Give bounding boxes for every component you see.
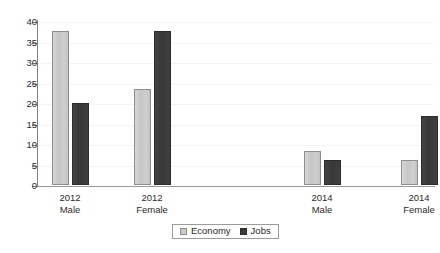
bar-economy-2014-female[interactable]	[401, 160, 418, 185]
y-axis-tick-label: 0	[0, 181, 37, 191]
y-axis-tick-label: 40	[0, 17, 37, 27]
bar-chart: 0510152025303540 2012Male2012Female2014M…	[0, 0, 440, 253]
y-axis-tick-label: 10	[0, 140, 37, 150]
x-axis-label-2014-female: 2014Female	[384, 192, 440, 216]
y-axis-tick-label-text: 15	[9, 120, 37, 130]
x-axis-label-2012-female: 2012Female	[117, 192, 187, 216]
y-axis-tick-label: 5	[0, 161, 37, 171]
legend-swatch-economy-icon	[180, 228, 187, 235]
x-axis-label-gender: Female	[117, 204, 187, 216]
plot-area	[37, 22, 435, 185]
bar-economy-2014-male[interactable]	[304, 151, 321, 185]
x-axis-label-2014-male: 2014Male	[287, 192, 357, 216]
legend-label: Economy	[191, 226, 231, 236]
y-axis-tick-label: 35	[0, 38, 37, 48]
y-axis-tick-label: 15	[0, 120, 37, 130]
legend-item-jobs[interactable]: Jobs	[240, 226, 271, 236]
x-axis-label-gender: Male	[35, 204, 105, 216]
y-axis-tick-label: 20	[0, 99, 37, 109]
y-axis-tick-label: 30	[0, 58, 37, 68]
bar-jobs-2014-female[interactable]	[421, 116, 438, 185]
x-axis-label-gender: Male	[287, 204, 357, 216]
chart-legend: EconomyJobs	[172, 224, 279, 239]
x-axis-label-year: 2014	[384, 192, 440, 204]
y-axis-tick-label-text: 20	[9, 99, 37, 109]
y-axis-tick-label-text: 35	[9, 38, 37, 48]
legend-swatch-jobs-icon	[240, 228, 247, 235]
x-axis-label-year: 2012	[117, 192, 187, 204]
bar-jobs-2012-female[interactable]	[154, 31, 171, 185]
y-axis-tick-label-text: 25	[9, 79, 37, 89]
y-axis-tick-label-text: 30	[9, 58, 37, 68]
x-axis-line	[37, 186, 435, 187]
x-axis-label-year: 2014	[287, 192, 357, 204]
x-axis-label-2012-male: 2012Male	[35, 192, 105, 216]
y-axis-tick-label-text: 0	[9, 181, 37, 191]
y-axis-tick-label: 25	[0, 79, 37, 89]
x-axis-label-gender: Female	[384, 204, 440, 216]
bar-economy-2012-male[interactable]	[52, 31, 69, 185]
bar-jobs-2012-male[interactable]	[72, 103, 89, 185]
bar-jobs-2014-male[interactable]	[324, 160, 341, 185]
y-axis-tick-label-text: 10	[9, 140, 37, 150]
x-axis-label-year: 2012	[35, 192, 105, 204]
y-axis-tick-label-text: 5	[9, 161, 37, 171]
legend-label: Jobs	[251, 226, 271, 236]
legend-item-economy[interactable]: Economy	[180, 226, 231, 236]
bar-economy-2012-female[interactable]	[134, 89, 151, 185]
y-axis-tick-label-text: 40	[9, 17, 37, 27]
